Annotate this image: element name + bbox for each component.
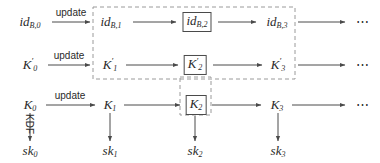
node-subscript: B,1 <box>111 21 122 30</box>
node-base: K <box>23 57 32 72</box>
node-kprime-3: K′3 <box>271 57 286 72</box>
node-subscript: 3 <box>281 64 285 73</box>
edge-label-update-key: update <box>55 91 86 101</box>
node-key-1: K1 <box>104 98 117 113</box>
node-id-B-0: idB,0 <box>19 15 40 30</box>
node-base: id <box>100 14 110 29</box>
node-kprime-1: K′1 <box>103 57 118 72</box>
node-key-2: K2 <box>186 95 207 115</box>
node-sk-0: sk0 <box>23 144 38 159</box>
node-sk-1: sk1 <box>103 144 118 159</box>
node-base: K <box>103 57 112 72</box>
node-subscript: 3 <box>281 150 285 159</box>
node-kprime-0: K′0 <box>23 57 38 72</box>
identity-row-ellipsis: ⋯ <box>356 14 370 30</box>
node-key-0: K0 <box>24 98 37 113</box>
node-base: K <box>104 97 113 112</box>
node-subscript: 0 <box>33 150 37 159</box>
node-subscript: 1 <box>113 64 117 73</box>
node-subscript: 2 <box>198 103 202 112</box>
node-subscript: 1 <box>113 150 117 159</box>
node-subscript: 2 <box>198 63 202 72</box>
node-id-B-2: idB,2 <box>182 12 211 32</box>
node-subscript: 0 <box>33 64 37 73</box>
node-sk-3: sk3 <box>271 144 286 159</box>
kdf-edge-label: KDF <box>24 114 34 134</box>
node-base: sk <box>23 143 34 158</box>
node-base: sk <box>188 143 199 158</box>
node-base: sk <box>271 143 282 158</box>
node-base: K <box>190 96 199 111</box>
node-key-3: K3 <box>271 98 284 113</box>
node-kprime-2: K′2 <box>184 55 207 75</box>
node-base: K <box>24 97 33 112</box>
node-base: sk <box>103 143 114 158</box>
edge-label-update-kprime: update <box>54 51 85 61</box>
node-subscript: B,2 <box>197 20 208 29</box>
node-subscript: 3 <box>279 104 283 113</box>
node-subscript: B,0 <box>30 21 41 30</box>
node-subscript: 0 <box>32 104 36 113</box>
key-evolution-diagram: idB,0 idB,1 idB,2 idB,3 update ⋯ K′0 K′1… <box>0 0 380 163</box>
edge-label-update-identity: update <box>56 8 87 18</box>
node-base: id <box>186 13 196 28</box>
node-base: K <box>188 56 197 71</box>
node-subscript: 2 <box>198 150 202 159</box>
node-subscript: B,3 <box>277 21 288 30</box>
node-subscript: 1 <box>112 104 116 113</box>
node-base: id <box>266 14 276 29</box>
node-base: K <box>271 97 280 112</box>
node-base: K <box>271 57 280 72</box>
node-sk-2: sk2 <box>188 144 203 159</box>
node-id-B-1: idB,1 <box>100 15 121 30</box>
node-base: id <box>19 14 29 29</box>
node-id-B-3: idB,3 <box>266 15 287 30</box>
key-row-ellipsis: ⋯ <box>356 97 370 113</box>
kprime-row-ellipsis: ⋯ <box>356 57 370 73</box>
